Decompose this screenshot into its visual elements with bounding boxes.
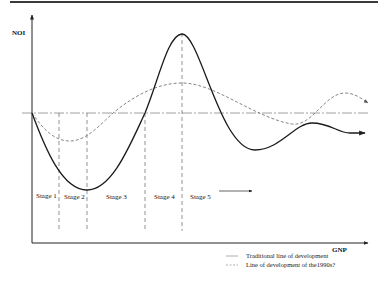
- top-border-rule: [10, 1, 378, 3]
- chart-figure: NOI GNP Stage 1 Stage 2 Stage 3 Stage 4 …: [0, 0, 383, 289]
- chart-canvas: [0, 0, 383, 289]
- stage-2-label: Stage 2: [64, 194, 85, 201]
- y-axis-label: NOI: [12, 30, 25, 37]
- series-traditional-line: [32, 34, 365, 190]
- legend-1990s-label: Line of development of the1990s?: [246, 262, 335, 269]
- stage-3-label: Stage 3: [106, 194, 127, 201]
- x-axis-label: GNP: [332, 247, 347, 254]
- legend-traditional-label: Traditional line of development: [246, 253, 328, 260]
- stage-5-label: Stage 5: [190, 194, 211, 201]
- stage-4-label: Stage 4: [154, 194, 175, 201]
- series-1990s-line: [32, 83, 368, 141]
- stage-1-label: Stage 1: [36, 193, 57, 200]
